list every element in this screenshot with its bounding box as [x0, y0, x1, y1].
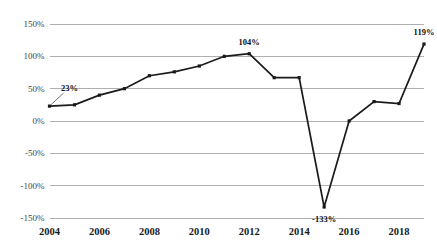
y-axis-tick-label: -50%: [0, 149, 45, 158]
x-axis-tick-label: 2008: [139, 227, 160, 238]
data-point-marker: [48, 105, 51, 108]
data-point-marker: [348, 119, 351, 122]
data-label-119: 119%: [414, 28, 435, 37]
data-point-marker: [173, 70, 176, 73]
data-point-marker: [223, 55, 226, 58]
data-label-104: 104%: [239, 38, 260, 47]
chart-container: 150%100%50%0%-50%-100%-150% 200420062008…: [0, 0, 437, 251]
data-point-marker: [298, 76, 301, 79]
data-point-marker: [198, 64, 201, 67]
data-point-marker: [248, 52, 251, 55]
x-axis-tick-label: 2010: [189, 227, 210, 238]
data-label-23: 23%: [61, 84, 78, 93]
data-point-marker: [372, 100, 375, 103]
x-axis-tick-label: 2012: [239, 227, 260, 238]
leader-line: [51, 93, 64, 105]
line-chart-plot: [0, 0, 437, 251]
data-point-marker: [323, 205, 326, 208]
annotation-leader-line: [51, 93, 64, 105]
x-axis-tick-label: 2014: [289, 227, 310, 238]
series-line: [50, 44, 425, 207]
data-point-marker: [98, 94, 101, 97]
data-point-marker: [273, 76, 276, 79]
x-axis-tick-label: 2006: [89, 227, 110, 238]
y-axis-tick-label: 100%: [0, 52, 45, 61]
gridlines: [50, 24, 425, 218]
data-point-marker: [73, 103, 76, 106]
y-axis-tick-label: 0%: [0, 117, 45, 126]
y-axis-tick-label: 50%: [0, 84, 45, 93]
x-axis-tick-label: 2016: [339, 227, 360, 238]
data-point-markers: [48, 42, 426, 208]
x-axis-tick-label: 2004: [39, 227, 60, 238]
y-axis-tick-label: -150%: [0, 214, 45, 223]
y-axis-tick-label: -100%: [0, 181, 45, 190]
y-axis-tick-label: 150%: [0, 20, 45, 29]
data-point-marker: [123, 87, 126, 90]
data-point-marker: [397, 102, 400, 105]
x-axis-tick-label: 2018: [389, 227, 410, 238]
data-point-marker: [422, 42, 425, 45]
data-series-line: [50, 44, 425, 207]
data-label-neg133: -133%: [312, 215, 336, 224]
data-point-marker: [148, 74, 151, 77]
